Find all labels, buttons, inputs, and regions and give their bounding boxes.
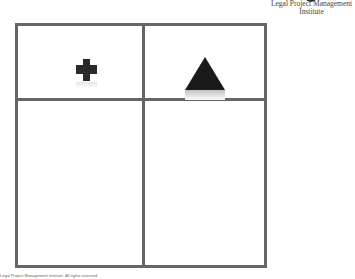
quadrant-grid	[15, 23, 267, 268]
plus-horizontal-bar	[76, 65, 97, 74]
grid-horizontal-divider	[18, 98, 264, 101]
copyright-text: Legal Project Management Institute. All …	[0, 273, 98, 278]
plus-shadow	[76, 82, 97, 88]
triangle-shape	[185, 57, 225, 90]
logo-line-2: Institute	[268, 8, 355, 16]
grid-vertical-divider	[142, 26, 145, 265]
logo: Legal Project Management Institute	[268, 0, 355, 16]
triangle-shadow	[185, 90, 225, 100]
